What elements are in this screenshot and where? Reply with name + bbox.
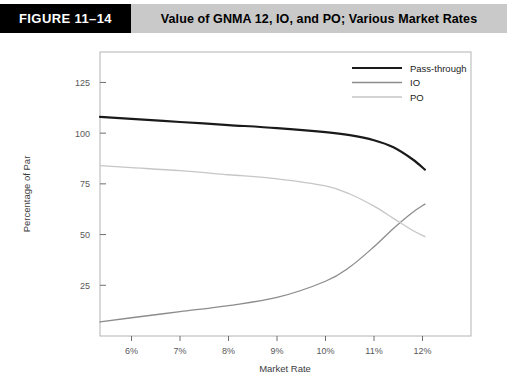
line-chart: 6%7%8%9%10%11%12% 255075100125 Market Ra…: [0, 33, 507, 391]
figure-number-box: FIGURE 11–14: [0, 4, 131, 33]
x-axis-tick-labels: 6%7%8%9%10%11%12%: [125, 346, 431, 356]
x-tick-label: 12%: [413, 346, 431, 356]
chart-area: 6%7%8%9%10%11%12% 255075100125 Market Ra…: [0, 33, 507, 391]
legend-label-pass-through: Pass-through: [410, 63, 467, 74]
y-tick-label: 75: [80, 179, 90, 189]
y-axis-title: Percentage of Par: [21, 156, 32, 233]
y-tick-label: 50: [80, 230, 90, 240]
legend-label-io: IO: [410, 77, 420, 88]
chart-legend: Pass-throughIOPO: [352, 63, 467, 103]
y-tick-label: 25: [80, 281, 90, 291]
x-axis-title: Market Rate: [259, 363, 311, 374]
y-tick-label: 100: [75, 129, 90, 139]
x-tick-label: 6%: [125, 346, 138, 356]
y-axis-ticks: [100, 82, 106, 285]
x-tick-label: 10%: [317, 346, 335, 356]
x-axis-ticks: [132, 336, 423, 341]
figure-number-label: FIGURE 11–14: [19, 11, 112, 26]
x-tick-label: 9%: [271, 346, 284, 356]
x-tick-label: 7%: [174, 346, 187, 356]
legend-label-po: PO: [410, 92, 424, 103]
x-tick-label: 11%: [365, 346, 382, 356]
figure-title: Value of GNMA 12, IO, and PO; Various Ma…: [131, 4, 507, 33]
x-tick-label: 8%: [222, 346, 235, 356]
series-line-io: [100, 204, 425, 322]
series-lines: [100, 117, 425, 322]
y-axis-tick-labels: 255075100125: [75, 78, 90, 291]
series-line-po: [100, 166, 425, 237]
y-tick-label: 125: [75, 78, 90, 88]
figure-header: FIGURE 11–14 Value of GNMA 12, IO, and P…: [0, 4, 507, 33]
series-line-pass-through: [100, 117, 425, 170]
